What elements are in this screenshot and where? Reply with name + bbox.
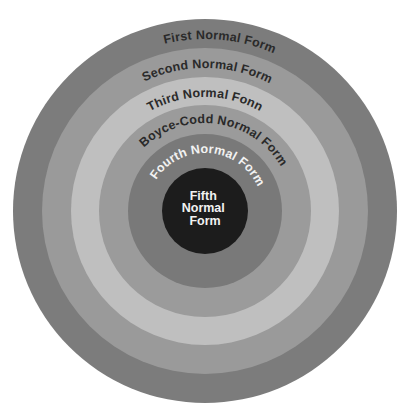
core-line-3: Form — [189, 214, 220, 228]
normal-forms-diagram: First Normal Form Second Normal Form Thi… — [0, 0, 408, 415]
